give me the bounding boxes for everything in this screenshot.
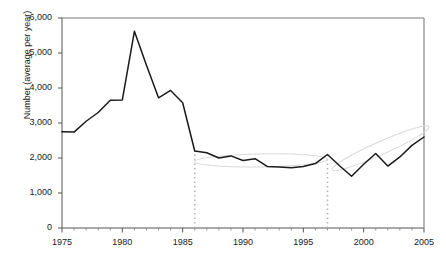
y-tick-label: 1,000 (8, 188, 52, 197)
y-tick-label: 3,000 (8, 118, 52, 127)
y-tick-label: 2,000 (8, 153, 52, 162)
plot-area (0, 0, 446, 263)
x-tick-label: 1975 (42, 238, 82, 247)
x-tick-label: 1980 (102, 238, 142, 247)
x-tick-label: 1995 (283, 238, 323, 247)
y-tick-label: 5,000 (8, 48, 52, 57)
y-tick-label: 0 (8, 223, 52, 232)
x-tick-label: 2000 (344, 238, 384, 247)
y-tick-label: 6,000 (8, 13, 52, 22)
rising-trend-ellipse-1997-2005 (329, 121, 431, 176)
x-tick-label: 2005 (404, 238, 444, 247)
y-tick-label: 4,000 (8, 83, 52, 92)
x-tick-label: 1990 (223, 238, 263, 247)
x-tick-label: 1985 (163, 238, 203, 247)
line-chart: Number (average per year) 01,0002,0003,0… (0, 0, 446, 263)
